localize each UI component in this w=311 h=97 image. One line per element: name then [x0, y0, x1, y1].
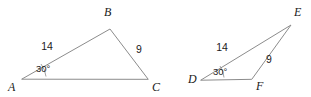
vertex-label-a: A	[7, 80, 16, 94]
side-length-de: 14	[216, 41, 228, 53]
vertex-label-d: D	[187, 72, 197, 86]
side-length-ab: 14	[41, 40, 53, 52]
vertex-label-c: C	[152, 80, 161, 94]
vertex-label-b: B	[104, 5, 112, 19]
side-length-ef: 9	[266, 53, 272, 65]
similar-triangles-diagram: A B C 14 9 30° D E F 14 9 30°	[0, 0, 311, 97]
vertex-label-e: E	[293, 5, 302, 19]
triangle-abc: A B C 14 9 30°	[7, 5, 161, 94]
angle-measure-a: 30°	[36, 63, 51, 74]
vertex-label-f: F	[255, 79, 264, 93]
angle-measure-d: 30°	[213, 66, 228, 77]
side-length-bc: 9	[136, 43, 142, 55]
triangle-def: D E F 14 9 30°	[187, 5, 302, 93]
geometry-figure-canvas: A B C 14 9 30° D E F 14 9 30°	[0, 0, 311, 97]
